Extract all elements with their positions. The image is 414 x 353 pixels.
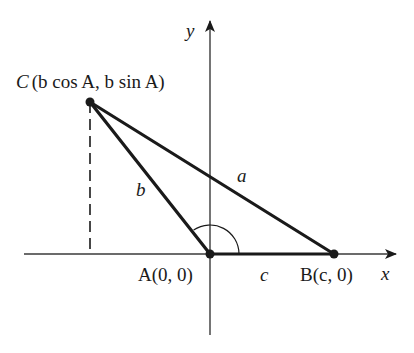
y-axis-label: y xyxy=(184,20,195,41)
side-a xyxy=(90,102,334,254)
point-b-label: B(c, 0) xyxy=(300,264,353,286)
side-a-label: a xyxy=(237,165,247,186)
side-b xyxy=(90,102,210,254)
side-b-label: b xyxy=(136,179,146,200)
vertex-a-dot xyxy=(206,250,215,259)
point-c-letter: C xyxy=(16,71,29,92)
vertex-c-dot xyxy=(86,98,95,107)
point-c-label: C(b cos A, b sin A) xyxy=(16,71,165,93)
point-a-label: A(0, 0) xyxy=(138,264,193,286)
point-c-coords: (b cos A, b sin A) xyxy=(32,71,165,93)
side-c-label: c xyxy=(260,264,269,285)
vertex-b-dot xyxy=(330,250,339,259)
triangle-diagram: y x C(b cos A, b sin A) A(0, 0) B(c, 0) … xyxy=(0,0,414,353)
x-axis-label: x xyxy=(380,263,390,284)
